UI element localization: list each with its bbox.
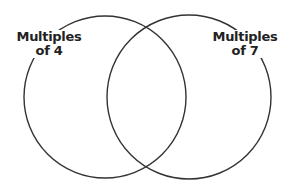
venn-diagram	[0, 0, 284, 186]
set-label-multiples-of-7: Multiples of 7	[212, 30, 278, 58]
set-label-line2: of 4	[16, 44, 82, 58]
set-label-line1: Multiples	[16, 30, 82, 44]
set-label-line1: Multiples	[212, 30, 278, 44]
set-label-line2: of 7	[212, 44, 278, 58]
set-label-multiples-of-4: Multiples of 4	[16, 30, 82, 58]
